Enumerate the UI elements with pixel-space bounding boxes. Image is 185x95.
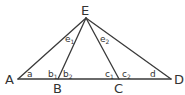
angle-label-b2: b2 [63,69,73,80]
segment-de [86,18,171,79]
point-label-a: A [5,72,14,87]
point-label-b: B [53,81,62,95]
angle-label-b1: b1 [48,69,58,80]
point-label-c: C [114,81,123,95]
angle-label-e2: e2 [100,34,110,45]
angle-label-d: d [150,69,156,79]
angle-label-c2: c2 [122,69,131,80]
point-label-e: E [81,3,89,18]
angle-label-a: a [27,69,33,79]
triangle-diagram: E A B C D a d b1 b2 c1 c2 e1 e2 [0,0,185,95]
angle-label-c1: c1 [105,69,114,80]
angle-label-e1: e1 [65,34,75,45]
segment-ce [86,18,119,79]
point-label-d: D [174,72,184,87]
